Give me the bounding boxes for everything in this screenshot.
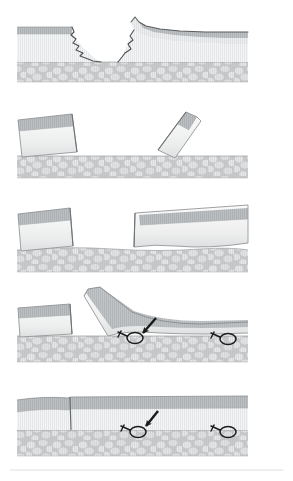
- left-lifted-flap: [18, 208, 73, 251]
- endothelial-layer: [17, 62, 248, 82]
- left-lifted-flap: [18, 304, 72, 337]
- exposed-bed: [17, 156, 248, 178]
- panel-flap-apposed: [17, 396, 248, 456]
- interface-bed: [17, 336, 248, 362]
- exposed-bed: [17, 248, 248, 272]
- corneal-flap-sequence-figure: Corneal flap wound healing sequence: [0, 0, 293, 481]
- left-lifted-flap: [18, 114, 77, 157]
- figure-root: Corneal flap wound healing sequence: [0, 0, 293, 481]
- interface-bed: [17, 430, 248, 456]
